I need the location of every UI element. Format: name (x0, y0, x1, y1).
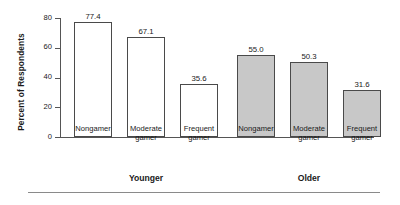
y-tick-80: 80 (55, 18, 60, 19)
y-tick-label-80: 80 (44, 13, 52, 22)
group-label-older: Older (249, 173, 369, 183)
y-tick-label-60: 60 (44, 42, 52, 51)
x-tick-label-line1: Frequent (330, 124, 394, 133)
y-tick-0: 0 (55, 137, 60, 138)
bar-value-label: 31.6 (354, 80, 369, 89)
bar-value-label: 35.6 (191, 74, 206, 83)
bar-value-label: 67.1 (138, 27, 153, 36)
x-tick-label: Frequentgamer (330, 124, 394, 142)
x-tick-label: Frequentgamer (167, 124, 231, 142)
x-tick-label-line2: gamer (167, 133, 231, 142)
x-tick-label-line2: gamer (330, 133, 394, 142)
y-tick-40: 40 (55, 78, 60, 79)
bar: 67.1 (127, 37, 165, 137)
bar-value-label: 55.0 (248, 45, 263, 54)
plot-area: 020406080 77.467.135.655.050.331.6 (60, 18, 374, 137)
bar: 77.4 (74, 22, 112, 137)
bar-value-label: 50.3 (301, 52, 316, 61)
y-tick-60: 60 (55, 48, 60, 49)
group-label-younger: Younger (86, 173, 206, 183)
y-tick-label-40: 40 (44, 72, 52, 81)
y-tick-label-0: 0 (48, 132, 52, 141)
bar-value-label: 77.4 (85, 12, 100, 21)
y-tick-label-20: 20 (44, 102, 52, 111)
bar-chart-figure: Percent of Respondents 020406080 77.467.… (0, 0, 400, 205)
x-tick-label-line1: Frequent (167, 124, 231, 133)
y-axis-title: Percent of Respondents (16, 17, 26, 147)
y-axis-line (60, 18, 61, 137)
bottom-divider (28, 192, 380, 193)
y-tick-20: 20 (55, 107, 60, 108)
